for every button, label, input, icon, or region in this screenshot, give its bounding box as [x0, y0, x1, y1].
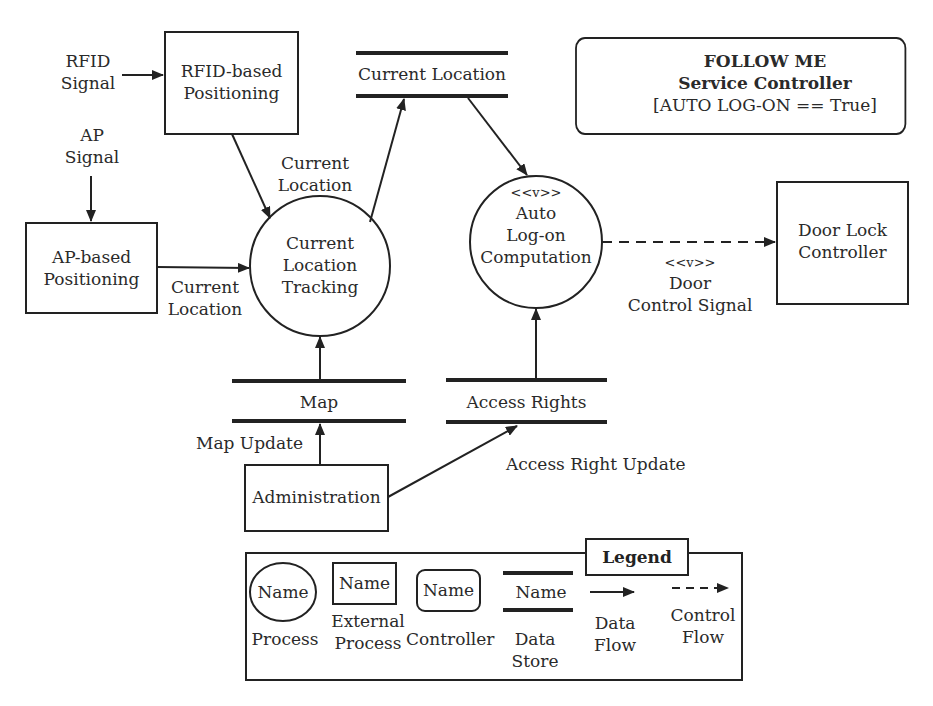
- legend-dataflow-label: DataFlow: [585, 612, 645, 656]
- rfid-signal-label: RFIDSignal: [48, 50, 128, 94]
- legend-process-sample: Name: [250, 581, 316, 603]
- current-location-store-label: Current Location: [356, 63, 508, 85]
- rfid-positioning-label: RFID-basedPositioning: [165, 60, 298, 104]
- rfid-to-tracking-flow: [232, 134, 270, 218]
- rfid-flow-label: CurrentLocation: [270, 152, 360, 196]
- ap-signal-label: APSignal: [52, 124, 132, 168]
- map-store-label: Map: [232, 391, 406, 413]
- tracking-label: CurrentLocationTracking: [250, 232, 390, 298]
- legend-controller-sample: Name: [417, 579, 480, 601]
- tracking-to-current-location-flow: [370, 99, 404, 222]
- legend-process-label: Process: [250, 628, 320, 650]
- controller-subtitle: Service Controller: [620, 72, 910, 94]
- controller-condition: [AUTO LOG-ON == True]: [620, 94, 910, 116]
- autologon-label: <<v>> AutoLog-onComputation: [470, 184, 602, 268]
- legend-external-label: ExternalProcess: [328, 610, 408, 654]
- access-rights-store-label: Access Rights: [446, 391, 607, 413]
- ap-to-tracking-flow: [157, 267, 249, 268]
- current-location-to-autologon-flow: [468, 98, 527, 175]
- legend-datastore-sample: Name: [503, 581, 579, 603]
- service-controller-label: FOLLOW ME Service Controller [AUTO LOG-O…: [620, 50, 910, 116]
- door-lock-label: Door LockController: [777, 219, 908, 263]
- ap-flow-label: CurrentLocation: [160, 276, 250, 320]
- controller-title: FOLLOW ME: [620, 50, 910, 72]
- legend-controller-label: Controller: [406, 628, 494, 650]
- legend-controlflow-label: ControlFlow: [665, 604, 741, 648]
- administration-label: Administration: [245, 486, 388, 508]
- legend-external-sample: Name: [333, 572, 396, 594]
- access-right-update-flow: [388, 426, 517, 497]
- legend-title: Legend: [585, 538, 689, 576]
- door-control-label: <<v>> DoorControl Signal: [620, 254, 760, 316]
- access-right-update-label: Access Right Update: [506, 453, 706, 475]
- ap-positioning-label: AP-basedPositioning: [26, 246, 157, 290]
- legend-datastore-label: DataStore: [505, 628, 565, 672]
- map-update-label: Map Update: [196, 432, 316, 454]
